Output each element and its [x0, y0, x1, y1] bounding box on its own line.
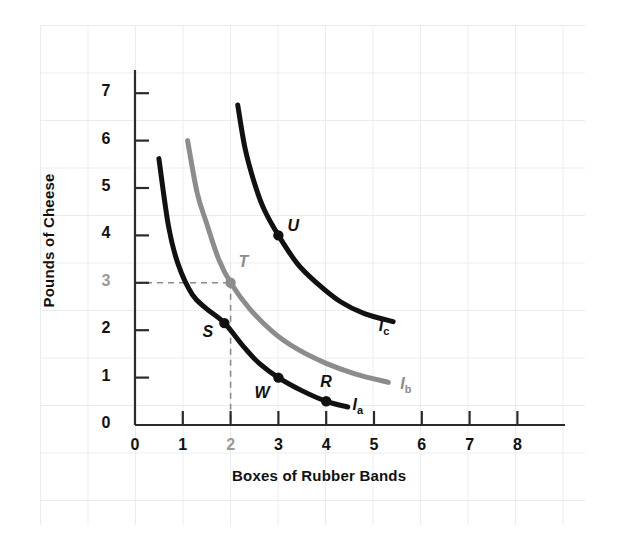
y-tick-label: 1 [91, 367, 121, 385]
x-tick-label: 4 [311, 436, 341, 454]
curve-I-b [188, 141, 389, 383]
y-tick-label: 6 [91, 130, 121, 148]
indifference-curves [159, 105, 393, 407]
indifference-curve-chart: Pounds of Cheese Boxes of Rubber Bands 0… [0, 0, 622, 542]
curve-label-I-a: Ia [352, 396, 363, 416]
x-axis-title: Boxes of Rubber Bands [232, 467, 406, 484]
x-tick-label: 1 [168, 436, 198, 454]
point-label-r: R [320, 373, 332, 391]
y-axis-tick-marks [135, 93, 149, 377]
point-label-s: S [202, 323, 213, 341]
curve-I-c [238, 105, 393, 322]
point-marker-w [273, 372, 283, 382]
point-label-t: T [239, 253, 249, 271]
curve-label-subscript: c [383, 325, 389, 337]
point-marker-u [273, 230, 283, 240]
point-label-w: W [254, 384, 269, 402]
x-tick-label: 2 [216, 436, 246, 454]
x-tick-label: 5 [359, 436, 389, 454]
y-tick-label: 0 [91, 414, 121, 432]
curve-label-subscript: b [405, 383, 412, 395]
x-tick-label: 0 [120, 436, 150, 454]
y-tick-label: 3 [91, 272, 121, 290]
point-marker-s [219, 318, 229, 328]
point-marker-r [321, 396, 331, 406]
y-tick-label: 5 [91, 177, 121, 195]
x-tick-label: 6 [407, 436, 437, 454]
data-point-markers [219, 230, 331, 406]
curve-label-I-b: Ib [400, 375, 411, 395]
curve-label-I-c: Ic [379, 317, 390, 337]
point-marker-t [225, 278, 235, 288]
y-axis-title: Pounds of Cheese [40, 151, 57, 331]
curve-label-subscript: a [357, 404, 363, 416]
point-label-u: U [287, 217, 299, 235]
dashed-guide-lines [135, 283, 231, 425]
y-tick-label: 7 [91, 82, 121, 100]
y-tick-label: 2 [91, 319, 121, 337]
x-tick-label: 8 [502, 436, 532, 454]
x-axis-tick-marks [183, 411, 518, 425]
x-tick-label: 3 [263, 436, 293, 454]
x-tick-label: 7 [455, 436, 485, 454]
y-tick-label: 4 [91, 224, 121, 242]
